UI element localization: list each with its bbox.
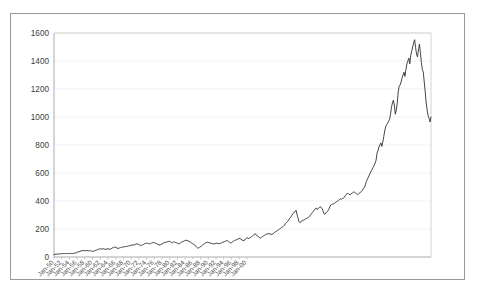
series-line-index-level: [54, 40, 431, 255]
chart-y-axis-labels: 02004006008001000120014001600: [31, 29, 50, 262]
chart-gridlines: [54, 33, 431, 229]
index-line-chart: 02004006008001000120014001600 Jan-50Jan-…: [11, 14, 466, 281]
y-tick-label: 800: [35, 141, 49, 150]
chart-plot-wrapper: 02004006008001000120014001600 Jan-50Jan-…: [11, 14, 466, 281]
y-tick-label: 1000: [31, 113, 50, 122]
y-tick-label: 600: [35, 169, 49, 178]
y-tick-label: 1200: [31, 85, 50, 94]
chart-x-axis-labels: Jan-50Jan-52Jan-54Jan-56Jan-58Jan-60Jan-…: [36, 258, 248, 277]
y-tick-label: 1600: [31, 29, 50, 38]
chart-figure-border: 02004006008001000120014001600 Jan-50Jan-…: [10, 13, 465, 280]
y-tick-label: 1400: [31, 57, 50, 66]
y-tick-label: 200: [35, 225, 49, 234]
y-tick-label: 400: [35, 197, 49, 206]
